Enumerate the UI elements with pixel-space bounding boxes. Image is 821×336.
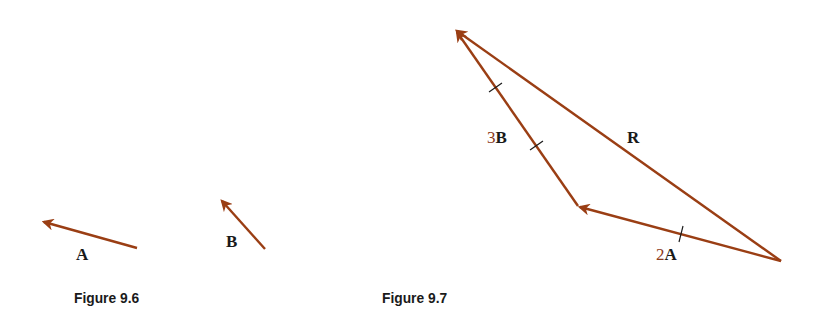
vector-b-symbol: B [496, 128, 507, 147]
tick-mark-3b-2 [530, 141, 543, 150]
vector-a-symbol: A [665, 245, 677, 264]
coefficient-3: 3 [487, 128, 496, 147]
vector-a-arrow [44, 222, 137, 248]
tick-mark-3b-1 [489, 83, 502, 92]
vector-2a-label: 2A [656, 246, 677, 263]
figure-9-6-caption: Figure 9.6 [74, 289, 139, 306]
vector-3b-arrow [457, 32, 578, 206]
figure-9-7-caption: Figure 9.7 [382, 289, 447, 306]
vector-b-label: B [226, 233, 237, 250]
vector-diagrams [0, 0, 821, 336]
coefficient-2: 2 [656, 245, 665, 264]
vector-a-label: A [76, 246, 88, 263]
vector-r-label: R [627, 129, 639, 146]
vector-3b-label: 3B [487, 129, 507, 146]
